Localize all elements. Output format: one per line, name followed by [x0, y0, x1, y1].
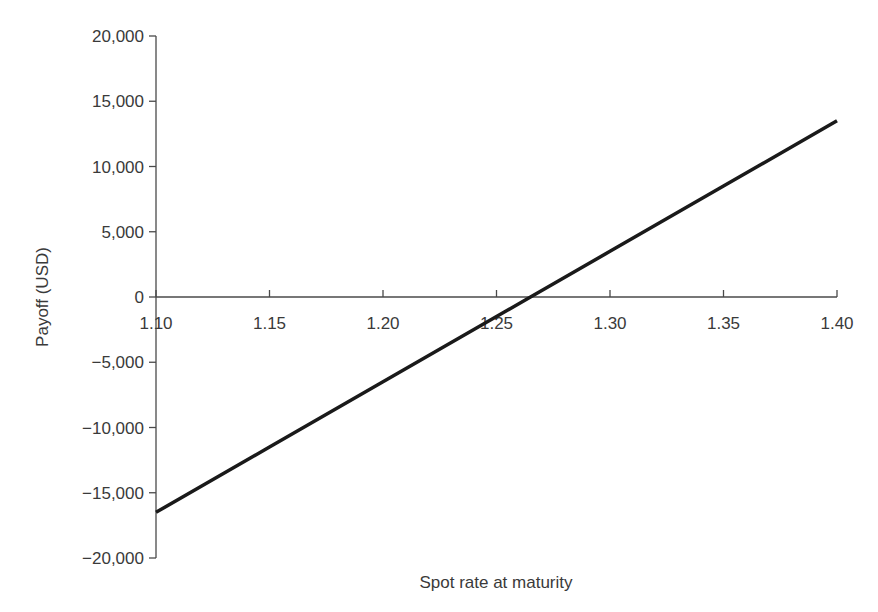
- y-tick-label: 10,000: [92, 158, 144, 177]
- x-axis: 1.101.151.201.251.301.351.40: [139, 290, 853, 333]
- x-tick-label: 1.30: [593, 314, 626, 333]
- x-tick-label: 1.10: [139, 314, 172, 333]
- x-tick-label: 1.20: [366, 314, 399, 333]
- y-tick-label: −15,000: [82, 484, 144, 503]
- y-tick-label: −20,000: [82, 549, 144, 568]
- payoff-chart: 20,00015,00010,0005,0000−5,000−10,000−15…: [0, 0, 878, 612]
- x-tick-label: 1.35: [707, 314, 740, 333]
- x-tick-label: 1.40: [820, 314, 853, 333]
- y-tick-label: 0: [135, 288, 144, 307]
- y-tick-label: −10,000: [82, 419, 144, 438]
- y-tick-label: −5,000: [92, 353, 144, 372]
- y-tick-label: 15,000: [92, 92, 144, 111]
- y-tick-label: 5,000: [101, 223, 144, 242]
- x-axis-title: Spot rate at maturity: [419, 573, 573, 592]
- x-tick-label: 1.15: [253, 314, 286, 333]
- y-tick-label: 20,000: [92, 27, 144, 46]
- y-axis: 20,00015,00010,0005,0000−5,000−10,000−15…: [82, 27, 156, 568]
- y-axis-title: Payoff (USD): [33, 247, 52, 347]
